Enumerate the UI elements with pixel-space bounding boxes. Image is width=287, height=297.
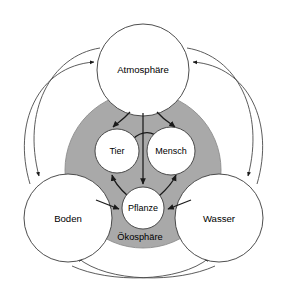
label-mensch: Mensch (155, 146, 187, 156)
label-atmosphaere: Atmosphäre (117, 64, 169, 75)
label-tier: Tier (109, 146, 124, 156)
ecosphere-diagram: Atmosphäre Boden Wasser Tier Mensch Pfla… (0, 0, 287, 297)
arc-boden-to-wasser (72, 258, 209, 278)
diagram-canvas: Atmosphäre Boden Wasser Tier Mensch Pfla… (0, 0, 287, 297)
label-ecosphere: Ökosphäre (117, 232, 162, 242)
label-pflanze: Pflanze (128, 203, 158, 213)
label-boden: Boden (54, 213, 82, 224)
label-wasser: Wasser (203, 213, 236, 224)
arc-wasser-to-boden (78, 258, 215, 278)
